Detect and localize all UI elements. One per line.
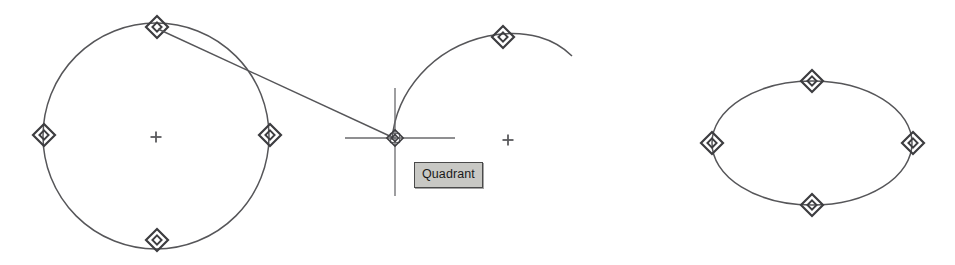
- quadrant-marker-circle-bottom[interactable]: [146, 229, 168, 251]
- quadrant-marker-arc-top[interactable]: [492, 26, 514, 48]
- arc-outline[interactable]: [392, 33, 572, 140]
- arc-center-mark: [503, 135, 514, 146]
- ellipse-outline[interactable]: [712, 81, 912, 205]
- rubber-band-line[interactable]: [158, 29, 394, 138]
- quadrant-marker-circle-right[interactable]: [259, 124, 281, 146]
- arc-entity[interactable]: [392, 26, 572, 146]
- osnap-tooltip: Quadrant: [414, 162, 483, 188]
- circle-center-mark: [151, 132, 162, 143]
- cad-drawing-area[interactable]: [0, 0, 955, 265]
- osnap-tooltip-label: Quadrant: [422, 167, 475, 181]
- quadrant-marker-circle-top[interactable]: [146, 16, 168, 38]
- drawing-canvas[interactable]: Quadrant: [0, 0, 955, 265]
- circle-entity[interactable]: [33, 16, 281, 251]
- ellipse-entity[interactable]: [701, 70, 924, 216]
- quadrant-marker-ellipse-right[interactable]: [902, 132, 924, 154]
